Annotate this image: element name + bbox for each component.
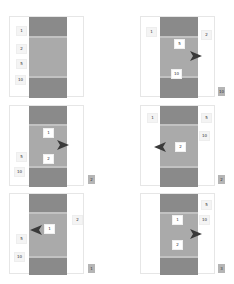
- number-label: 2: [16, 44, 27, 54]
- number-label: 5: [201, 200, 212, 210]
- number-label: 1: [44, 224, 55, 234]
- number-label: 5: [16, 152, 27, 162]
- number-label: 5: [174, 39, 185, 49]
- number-label: 10: [14, 167, 25, 177]
- step-badge: 3: [218, 264, 225, 273]
- step-badge: 10: [218, 87, 225, 96]
- arrow-right-icon: [190, 51, 202, 61]
- dark-band-top: [160, 17, 198, 36]
- number-label: 2: [172, 240, 183, 250]
- step-badge: 2: [218, 175, 225, 184]
- light-band: [29, 214, 67, 256]
- diagram-panel-6: 5 10 1 2: [140, 193, 215, 274]
- arrow-left-icon: [154, 142, 166, 152]
- step-badge: 2: [88, 175, 95, 184]
- dark-band-bottom: [29, 258, 67, 275]
- dark-band-bottom: [29, 168, 67, 187]
- number-label: 10: [14, 252, 25, 262]
- step-badge: 1: [88, 264, 95, 273]
- dark-band-bottom: [29, 78, 67, 98]
- diagram-panel-1: 1 2 5 10: [9, 16, 84, 97]
- dark-band-bottom: [160, 168, 198, 187]
- dark-band-bottom: [160, 78, 198, 98]
- number-label: 1: [43, 128, 54, 138]
- number-label: 2: [175, 142, 186, 152]
- number-label: 1: [16, 26, 27, 36]
- number-label: 1: [172, 215, 183, 225]
- diagram-panel-4: 1 5 10 2: [140, 105, 215, 186]
- diagram-panel-3: 1 2 5 10: [9, 105, 84, 186]
- dark-band-top: [160, 194, 198, 212]
- number-label: 10: [199, 131, 210, 141]
- arrow-left-icon: [30, 225, 42, 235]
- dark-band-bottom: [160, 258, 198, 275]
- diagram-panel-2: 1 5 2 10: [140, 16, 215, 97]
- figure-header: [4, 1, 60, 5]
- number-label: 5: [16, 234, 27, 244]
- dark-band-top: [29, 17, 67, 36]
- dark-band-top: [29, 106, 67, 124]
- diagram-panel-5: 1 2 5 10: [9, 193, 84, 274]
- dark-band-top: [160, 106, 198, 124]
- number-label: 10: [171, 69, 182, 79]
- arrow-right-icon: [57, 140, 69, 150]
- number-label: 5: [16, 59, 27, 69]
- dark-band-top: [29, 194, 67, 212]
- number-label: 2: [43, 154, 54, 164]
- arrow-right-icon: [190, 229, 202, 239]
- number-label: 1: [147, 113, 158, 123]
- number-label: 1: [146, 27, 157, 37]
- number-label: 2: [72, 215, 83, 225]
- number-label: 5: [201, 113, 212, 123]
- number-label: 10: [199, 215, 210, 225]
- number-label: 10: [15, 75, 26, 85]
- light-band: [29, 38, 67, 76]
- number-label: 2: [201, 30, 212, 40]
